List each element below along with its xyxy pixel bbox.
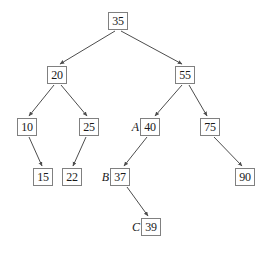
tree-diagram-canvas: 3520551025A40751522B3790C39	[0, 0, 273, 256]
tree-edge-n20-to-n10	[29, 85, 54, 116]
tree-node-39: 39	[141, 218, 161, 236]
tree-node-40: 40	[140, 118, 160, 136]
node-label-a: A	[127, 118, 139, 136]
tree-edge-n35-to-n55	[121, 31, 182, 64]
tree-edge-n20-to-n25	[61, 85, 87, 116]
tree-edge-n55-to-n75	[189, 85, 207, 116]
tree-node-90: 90	[235, 168, 255, 186]
node-label-c: C	[128, 218, 140, 236]
tree-node-15: 15	[33, 168, 53, 186]
tree-node-25: 25	[79, 118, 99, 136]
tree-edge-n10-to-n15	[29, 137, 42, 166]
tree-node-22: 22	[62, 168, 82, 186]
tree-node-37: 37	[110, 168, 130, 186]
node-label-b: B	[97, 168, 109, 186]
tree-node-10: 10	[17, 118, 37, 136]
tree-node-75: 75	[200, 118, 220, 136]
tree-edge-n35-to-n20	[60, 31, 115, 64]
tree-node-20: 20	[47, 66, 67, 84]
tree-edge-n40-to-n37	[124, 137, 147, 166]
tree-edge-n37-to-n39	[127, 187, 148, 216]
tree-edge-n25-to-n22	[73, 137, 86, 166]
tree-node-35: 35	[108, 12, 128, 30]
tree-edge-n75-to-n90	[214, 137, 242, 166]
tree-node-55: 55	[175, 66, 195, 84]
tree-edge-n55-to-n40	[155, 85, 182, 116]
